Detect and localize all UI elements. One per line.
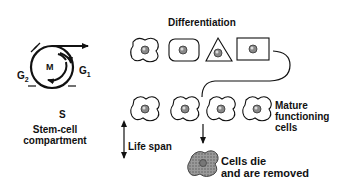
phase-m-label: M bbox=[46, 62, 54, 73]
phase-g2-subscript: 2 bbox=[25, 76, 29, 83]
phase-g2-label: G2 bbox=[17, 70, 29, 85]
mature-label-line2: functioning bbox=[275, 111, 329, 122]
death-label-line2: and are removed bbox=[221, 168, 309, 179]
diagram-canvas bbox=[0, 0, 342, 189]
stem-cell-caption-line1: Stem-cell bbox=[20, 124, 90, 135]
differentiation-title: Differentiation bbox=[168, 17, 236, 28]
lifespan-label: Life span bbox=[128, 141, 172, 152]
differentiating-cells bbox=[131, 38, 269, 62]
dying-cell bbox=[188, 151, 218, 177]
phase-g1-text: G bbox=[79, 65, 87, 76]
phase-g2-text: G bbox=[17, 70, 25, 81]
mature-label-line1: Mature bbox=[275, 100, 308, 111]
stem-cell-caption-line2: compartment bbox=[20, 135, 90, 146]
mature-label-line3: cells bbox=[275, 122, 297, 133]
mature-cells bbox=[131, 97, 272, 121]
phase-g1-subscript: 1 bbox=[87, 71, 91, 78]
phase-s-label: S bbox=[59, 109, 66, 120]
death-label-line1: Cells die bbox=[221, 156, 266, 167]
phase-g1-label: G1 bbox=[79, 65, 91, 80]
